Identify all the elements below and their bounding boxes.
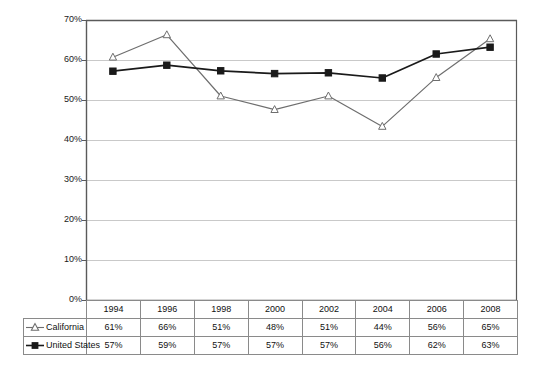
table-cell: 59% [140, 337, 194, 355]
table-cell: 56% [356, 337, 410, 355]
y-axis-tick-label: 10% [40, 255, 82, 264]
table-column-header: 1994 [87, 301, 141, 319]
data-point-marker [379, 75, 385, 81]
legend-row-header: California [24, 319, 87, 337]
y-axis-tick-labels: 0%10%20%30%40%50%60%70% [36, 0, 82, 305]
table-cell: 65% [464, 319, 518, 337]
data-point-marker [433, 74, 440, 81]
series-california [109, 31, 493, 130]
data-point-marker [325, 70, 331, 76]
data-table: 19941996199820002002200420062008 Califor… [23, 300, 518, 355]
table-column-header: 1998 [194, 301, 248, 319]
data-point-marker [325, 92, 332, 99]
table-column-header: 2006 [410, 301, 464, 319]
filled-square-line-marker-icon [25, 340, 45, 351]
table-cell: 57% [302, 337, 356, 355]
table-column-header: 1996 [140, 301, 194, 319]
table-column-header: 2008 [464, 301, 518, 319]
y-axis-tick-label: 30% [40, 175, 82, 184]
y-axis-tick-label: 20% [40, 215, 82, 224]
table-column-header: 2002 [302, 301, 356, 319]
open-triangle-line-marker-icon [25, 322, 45, 333]
table-cell: 61% [87, 319, 141, 337]
data-point-marker [218, 68, 224, 74]
data-point-marker [486, 35, 493, 42]
table-row: United States57%59%57%57%57%56%62%63% [24, 337, 518, 355]
y-axis-tick-label: 40% [40, 135, 82, 144]
table-cell: 57% [194, 337, 248, 355]
table-cell: 44% [356, 319, 410, 337]
table-cell: 63% [464, 337, 518, 355]
table-column-header: 2000 [248, 301, 302, 319]
data-point-marker [110, 68, 116, 74]
table-cell: 66% [140, 319, 194, 337]
legend-series-label: California [46, 322, 84, 333]
table-corner-cell [24, 301, 87, 319]
data-point-marker [433, 51, 439, 57]
plot-area: 0%10%20%30%40%50%60%70% [0, 0, 539, 305]
table-cell: 51% [302, 319, 356, 337]
table-row: California61%66%51%48%51%44%56%65% [24, 319, 518, 337]
table-header: 19941996199820002002200420062008 [24, 301, 518, 319]
table-cell: 51% [194, 319, 248, 337]
table-header-row: 19941996199820002002200420062008 [24, 301, 518, 319]
table-cell: 57% [248, 337, 302, 355]
y-axis-tick-label: 50% [40, 95, 82, 104]
data-point-marker [164, 62, 170, 68]
table-body: California61%66%51%48%51%44%56%65%United… [24, 319, 518, 355]
data-point-marker [163, 31, 170, 38]
y-axis-tick-label: 60% [40, 55, 82, 64]
table-cell: 56% [410, 319, 464, 337]
y-axis-tick-label: 70% [40, 15, 82, 24]
table-cell: 62% [410, 337, 464, 355]
legend-row-header: United States [24, 337, 87, 355]
legend-series-label: United States [46, 340, 100, 351]
data-point-marker [487, 44, 493, 50]
line-chart-figure: 0%10%20%30%40%50%60%70% 1994199619982000… [0, 0, 539, 367]
data-point-marker [271, 70, 277, 76]
table-cell: 48% [248, 319, 302, 337]
table-column-header: 2004 [356, 301, 410, 319]
